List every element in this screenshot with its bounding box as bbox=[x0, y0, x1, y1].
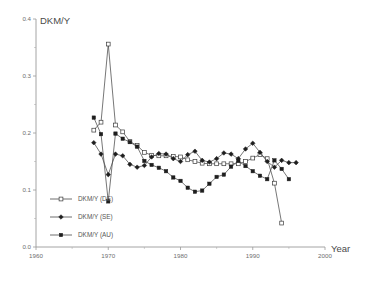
data-point-marker bbox=[229, 165, 232, 168]
data-point-marker bbox=[179, 155, 183, 159]
y-axis: 0.00.10.20.30.4 bbox=[22, 15, 36, 250]
data-point-marker bbox=[135, 165, 140, 170]
data-point-marker bbox=[92, 116, 95, 119]
x-axis-title: Year bbox=[331, 243, 350, 254]
y-tick-label: 0.4 bbox=[22, 15, 31, 22]
legend-item-1[interactable]: DKM/Y (DE) bbox=[50, 195, 113, 203]
data-point-marker bbox=[99, 132, 102, 135]
x-tick-label: 1970 bbox=[101, 252, 115, 259]
data-point-marker bbox=[200, 189, 203, 192]
legend-label: DKM/Y (AU) bbox=[78, 231, 113, 239]
data-point-marker bbox=[143, 159, 146, 162]
x-tick-label: 1980 bbox=[174, 252, 188, 259]
data-point-marker bbox=[193, 190, 196, 193]
data-point-marker bbox=[135, 145, 138, 148]
data-point-marker bbox=[59, 197, 63, 201]
data-point-marker bbox=[273, 159, 276, 162]
data-point-marker bbox=[186, 158, 190, 162]
y-tick-label: 0.0 bbox=[22, 243, 31, 250]
legend-label: DKM/Y (DE) bbox=[78, 195, 113, 203]
data-point-marker bbox=[294, 160, 299, 165]
data-point-marker bbox=[106, 42, 110, 46]
data-point-marker bbox=[215, 175, 218, 178]
data-point-marker bbox=[222, 173, 225, 176]
chart-container: 0.00.10.20.30.4 19601970198019902000 DKM… bbox=[0, 0, 375, 282]
data-point-marker bbox=[59, 233, 62, 236]
data-point-marker bbox=[59, 215, 64, 220]
data-point-marker bbox=[229, 152, 234, 157]
data-point-marker bbox=[128, 140, 131, 143]
data-point-marker bbox=[287, 177, 290, 180]
series-3 bbox=[92, 116, 290, 203]
y-tick-label: 0.3 bbox=[22, 72, 31, 79]
data-point-marker bbox=[222, 162, 226, 166]
data-point-marker bbox=[244, 164, 247, 167]
y-tick-label: 0.2 bbox=[22, 129, 31, 136]
data-point-marker bbox=[150, 163, 153, 166]
data-point-marker bbox=[215, 162, 219, 166]
chart-legend: DKM/Y (DE)DKM/Y (SE)DKM/Y (AU) bbox=[50, 195, 113, 239]
data-point-marker bbox=[237, 159, 240, 162]
data-point-marker bbox=[193, 160, 197, 164]
line-chart: 0.00.10.20.30.4 19601970198019902000 DKM… bbox=[0, 0, 375, 282]
data-point-marker bbox=[114, 123, 118, 127]
x-axis: 19601970198019902000 bbox=[29, 247, 332, 259]
data-point-marker bbox=[287, 160, 292, 165]
data-point-marker bbox=[186, 186, 189, 189]
data-point-marker bbox=[121, 137, 124, 140]
data-point-marker bbox=[99, 120, 103, 124]
data-point-marker bbox=[280, 167, 283, 170]
data-point-marker bbox=[106, 172, 111, 177]
data-point-marker bbox=[114, 132, 117, 135]
legend-label: DKM/Y (SE) bbox=[78, 213, 113, 221]
data-point-marker bbox=[92, 128, 96, 132]
x-tick-label: 1990 bbox=[246, 252, 260, 259]
data-point-marker bbox=[208, 182, 211, 185]
data-point-marker bbox=[258, 174, 261, 177]
data-point-marker bbox=[157, 166, 160, 169]
legend-item-3[interactable]: DKM/Y (AU) bbox=[50, 231, 113, 239]
y-axis-title: DKM/Y bbox=[40, 15, 71, 26]
data-point-marker bbox=[280, 221, 284, 225]
data-point-marker bbox=[251, 156, 255, 160]
series-layer bbox=[92, 42, 299, 225]
legend-item-2[interactable]: DKM/Y (SE) bbox=[50, 213, 113, 221]
data-point-marker bbox=[121, 130, 125, 134]
data-point-marker bbox=[266, 177, 269, 180]
y-tick-label: 0.1 bbox=[22, 186, 31, 193]
data-point-marker bbox=[273, 181, 277, 185]
data-point-marker bbox=[142, 150, 146, 154]
data-point-marker bbox=[251, 169, 254, 172]
data-point-marker bbox=[179, 179, 182, 182]
x-tick-label: 1960 bbox=[29, 252, 43, 259]
data-point-marker bbox=[113, 152, 118, 157]
data-point-marker bbox=[172, 176, 175, 179]
data-point-marker bbox=[164, 169, 167, 172]
data-point-marker bbox=[92, 140, 97, 145]
series-1 bbox=[92, 42, 284, 225]
data-point-marker bbox=[244, 160, 248, 164]
